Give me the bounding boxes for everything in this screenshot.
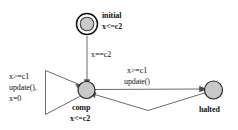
state-comp[interactable]: [78, 82, 95, 99]
edge-label-comp-to-halted-guard: x>=c1: [127, 66, 147, 75]
selfloop-label-guard: x>=c1: [9, 72, 29, 81]
state-halted-name: halted: [199, 105, 220, 114]
state-initial-name: initial: [102, 11, 121, 20]
edge-label-initial-to-comp: x==c2: [91, 50, 111, 59]
state-halted[interactable]: [205, 81, 223, 99]
state-comp-invariant: x<=c2: [70, 114, 90, 123]
edge-label-comp-to-halted-update: update(): [124, 77, 150, 86]
state-initial[interactable]: [77, 14, 98, 35]
selfloop-label-assignment: x=0: [9, 94, 21, 103]
state-initial-invariant: x<=c2: [102, 22, 122, 31]
selfloop-label-update: update(),: [9, 83, 37, 92]
state-comp-name: comp: [72, 103, 90, 112]
edge-comp-to-halted: [93, 86, 207, 92]
edge-initial-to-comp: [84, 36, 90, 87]
edge-halted-to-comp: [90, 92, 207, 110]
state-machine-diagram: initial x<=c2 x==c2 x>=c1 update(), x=0 …: [0, 0, 238, 130]
